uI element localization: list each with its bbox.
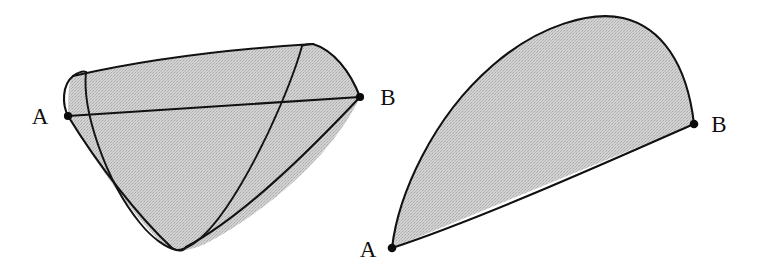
left-vertex-a-dot xyxy=(64,112,72,120)
right-label-b: B xyxy=(711,112,726,137)
left-figure-group: A B xyxy=(32,20,400,270)
right-vertex-b-dot xyxy=(690,120,699,129)
left-vertex-b-dot xyxy=(356,93,364,101)
right-figure-group: A B xyxy=(360,5,727,262)
right-lens-shaded-body xyxy=(380,5,710,260)
geometry-figure-canvas: A B A B xyxy=(0,0,760,276)
left-cone-shaded-body xyxy=(40,20,400,270)
right-label-a: A xyxy=(360,237,377,262)
right-vertex-a-dot xyxy=(388,244,397,253)
left-label-a: A xyxy=(32,104,49,129)
left-label-b: B xyxy=(380,85,395,110)
